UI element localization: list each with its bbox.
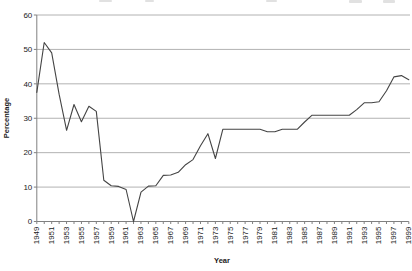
x-tick-label: 1975 (226, 226, 235, 244)
x-tick-label: 1949 (32, 226, 41, 244)
x-tick-label: 1973 (211, 226, 220, 244)
x-tick-label: 1997 (389, 226, 398, 244)
x-tick-label: 1991 (345, 226, 354, 244)
x-tick-label: 1981 (270, 226, 279, 244)
x-axis-title: Year (214, 256, 230, 265)
x-tick-label: 1977 (241, 226, 250, 244)
x-tick-label: 1967 (166, 226, 175, 244)
y-tick-label: 0 (28, 217, 33, 226)
chart-screen: 0102030405060194919511953195519571959196… (0, 0, 412, 271)
x-tick-label: 1953 (62, 226, 71, 244)
axes (34, 15, 409, 224)
y-tick-label: 30 (23, 114, 32, 123)
x-tick-label: 1983 (285, 226, 294, 244)
y-tick-label: 60 (23, 11, 32, 20)
x-tick-label: 1959 (107, 226, 116, 244)
gridlines (37, 15, 410, 187)
x-tick-label: 1965 (151, 226, 160, 244)
x-tick-label: 1995 (374, 226, 383, 244)
y-axis-title: Percentage (2, 98, 11, 138)
x-tick-label: 1987 (315, 226, 324, 244)
x-tick-label: 1957 (92, 226, 101, 244)
x-tick-label: 1971 (196, 226, 205, 244)
y-tick-label: 20 (23, 148, 32, 157)
y-tick-label: 10 (23, 183, 32, 192)
x-tick-label: 1963 (136, 226, 145, 244)
x-tick-label: 1951 (47, 226, 56, 244)
y-tick-label: 40 (23, 80, 32, 89)
x-tick-label: 1989 (330, 226, 339, 244)
x-tick-label: 1961 (121, 226, 130, 244)
x-tick-label: 1969 (181, 226, 190, 244)
data-series (37, 43, 409, 222)
data-line (37, 43, 409, 222)
x-tick-label: 1985 (300, 226, 309, 244)
x-tick-label: 1979 (255, 226, 264, 244)
x-tick-label: 1955 (77, 226, 86, 244)
x-tick-label: 1999 (404, 226, 412, 244)
tick-labels: 0102030405060194919511953195519571959196… (23, 11, 412, 245)
x-tick-label: 1993 (360, 226, 369, 244)
line-chart: 0102030405060194919511953195519571959196… (0, 0, 412, 271)
y-tick-label: 50 (23, 45, 32, 54)
